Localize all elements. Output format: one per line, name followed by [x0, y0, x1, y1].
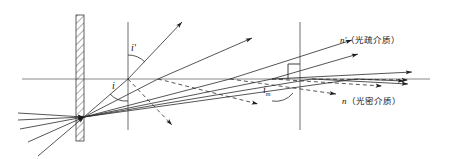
incident-ray-4	[28, 117, 84, 142]
internal-ray-group	[84, 79, 356, 117]
optics-figure: n′（光疏介质） n（光密介质） i′ i im	[0, 0, 458, 159]
internal-ray-to-p5	[84, 79, 312, 117]
incident-ray-1	[18, 113, 84, 117]
medium-upper-desc: （光疏介质）	[346, 35, 400, 45]
reflected-ray-1	[128, 79, 172, 125]
angle-label-refraction: i′	[131, 43, 136, 53]
angle-incidence-text: i	[112, 80, 115, 91]
angle-refraction-text: i′	[131, 42, 136, 53]
medium-lower-desc: （光密介质）	[347, 96, 401, 106]
hatched-screen	[76, 15, 84, 141]
incident-ray-group	[18, 113, 84, 156]
reflected-ray-2	[158, 79, 258, 104]
angle-label-incidence: i	[112, 81, 115, 91]
angle-arc-incidence	[110, 94, 128, 101]
refracted-ray-2	[158, 38, 252, 79]
ray-diagram-svg	[0, 0, 458, 159]
refracted-ray-1	[128, 22, 182, 79]
internal-ray-to-p6	[84, 79, 356, 117]
reflected-ray-3	[230, 79, 336, 94]
angle-arc-critical	[272, 93, 293, 101]
angle-label-critical: im	[263, 85, 270, 98]
medium-label-upper: n′（光疏介质）	[340, 36, 400, 45]
angle-critical-subscript-text: m	[266, 90, 271, 97]
medium-label-lower: n（光密介质）	[342, 97, 401, 106]
angle-arc-refraction	[128, 55, 145, 62]
refracted-ray-group	[128, 22, 412, 79]
